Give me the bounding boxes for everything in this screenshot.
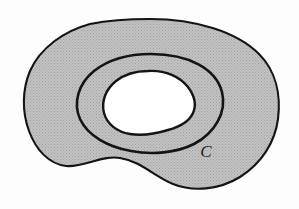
- inner-bean-hole: [103, 71, 195, 135]
- curve-c-label: C: [200, 142, 212, 161]
- figure-container: C: [0, 0, 299, 209]
- region-diagram: C: [0, 0, 299, 209]
